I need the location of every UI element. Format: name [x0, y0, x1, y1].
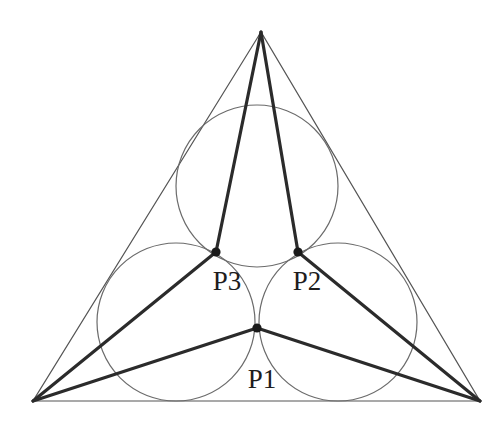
bottom-right-to-P2	[298, 252, 480, 401]
thick-segment-group	[33, 32, 480, 401]
point-label-p2: P2	[293, 266, 322, 296]
point-marker-p1	[252, 323, 261, 332]
point-marker-p3	[211, 247, 220, 256]
bottom-left-to-P1	[33, 328, 257, 401]
bottom-right-circle	[259, 243, 417, 401]
point-label-p3: P3	[213, 266, 242, 296]
point-label-p1: P1	[248, 364, 277, 394]
apex-to-P3	[216, 32, 261, 252]
figure-canvas: P1 P2 P3	[0, 0, 501, 424]
bottom-left-to-P3	[33, 252, 216, 401]
bottom-right-to-P1	[257, 328, 480, 401]
point-marker-p2	[293, 247, 302, 256]
geometry-diagram: P1 P2 P3	[0, 0, 501, 424]
apex-to-P2	[261, 32, 298, 252]
